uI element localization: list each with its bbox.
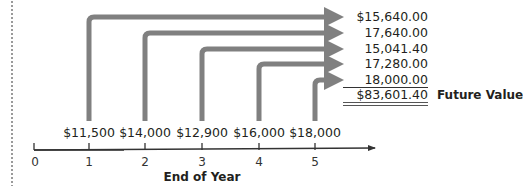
x-axis-label: End of Year <box>164 170 241 184</box>
cash-flow-5: $18,000 <box>289 125 341 140</box>
future-value-2: 17,640.00 <box>340 26 428 40</box>
arrow-year-3 <box>202 49 330 121</box>
future-value-4: 17,280.00 <box>340 57 428 71</box>
arrow-year-2 <box>145 33 330 121</box>
arrow-year-5 <box>315 80 330 121</box>
tick-label-4: 4 <box>255 155 263 169</box>
tick-label-2: 2 <box>141 155 149 169</box>
future-value-total: $83,601.40 <box>340 88 428 102</box>
future-value-label: Future Value <box>437 88 523 102</box>
cash-flow-2: $14,000 <box>119 125 171 140</box>
cash-flow-3: $12,900 <box>176 125 228 140</box>
future-value-3: 15,041.40 <box>340 42 428 56</box>
tick-label-0: 0 <box>31 155 39 169</box>
tick-label-1: 1 <box>85 155 93 169</box>
future-value-1: $15,640.00 <box>340 10 428 24</box>
arrow-year-4 <box>259 64 330 121</box>
future-value-5: 18,000.00 <box>340 73 428 87</box>
tick-label-5: 5 <box>311 155 319 169</box>
tick-label-3: 3 <box>198 155 206 169</box>
cash-flow-1: $11,500 <box>63 125 115 140</box>
total-double-rule <box>343 102 428 106</box>
cash-flow-4: $16,000 <box>233 125 285 140</box>
